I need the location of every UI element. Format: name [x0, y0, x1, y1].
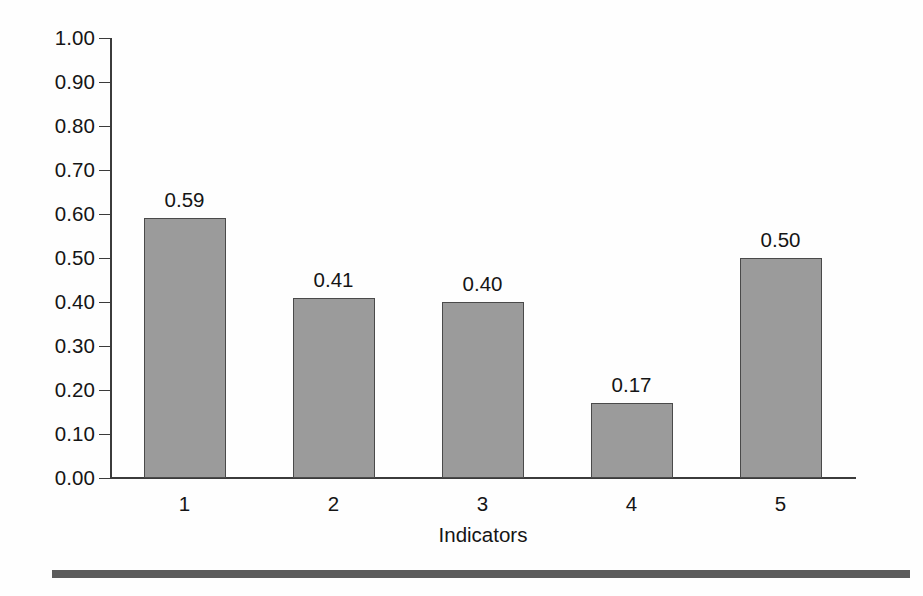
y-tick-mark	[99, 346, 110, 347]
y-tick-mark	[99, 82, 110, 83]
y-tick-label: 0.60	[55, 202, 95, 226]
bar-chart-figure: 1.000.900.800.700.600.500.400.300.200.10…	[0, 0, 923, 596]
x-axis-title: Indicators	[110, 523, 856, 547]
plot-area: 1.000.900.800.700.600.500.400.300.200.10…	[110, 38, 855, 478]
y-tick-mark	[99, 38, 110, 39]
y-tick-mark	[99, 170, 110, 171]
y-tick-label: 0.50	[55, 246, 95, 270]
bar-value-label: 0.59	[165, 188, 205, 212]
y-tick-mark	[99, 478, 110, 479]
x-tick-label-5: 5	[775, 492, 786, 516]
y-tick-mark	[99, 390, 110, 391]
y-tick-label: 0.70	[55, 158, 95, 182]
bar-2[interactable]: 0.41	[293, 298, 375, 478]
y-tick-mark	[99, 214, 110, 215]
y-tick-label: 0.20	[55, 378, 95, 402]
x-tick-label-1: 1	[179, 492, 190, 516]
y-tick-label: 0.40	[55, 290, 95, 314]
bar-5[interactable]: 0.50	[740, 258, 822, 478]
y-tick-mark	[99, 126, 110, 127]
y-tick-label: 0.30	[55, 334, 95, 358]
y-tick-label: 0.80	[55, 114, 95, 138]
y-tick-mark	[99, 258, 110, 259]
x-tick-label-2: 2	[328, 492, 339, 516]
bar-value-label: 0.40	[463, 272, 503, 296]
y-tick-label: 0.90	[55, 70, 95, 94]
bar-1[interactable]: 0.59	[144, 218, 226, 478]
x-tick-label-3: 3	[477, 492, 488, 516]
y-tick-label: 0.00	[55, 466, 95, 490]
bottom-divider-rule	[52, 570, 910, 578]
y-tick-mark	[99, 434, 110, 435]
bar-3[interactable]: 0.40	[442, 302, 524, 478]
bar-value-label: 0.17	[612, 373, 652, 397]
y-tick-mark	[99, 302, 110, 303]
x-tick-label-4: 4	[626, 492, 637, 516]
y-tick-label: 0.10	[55, 422, 95, 446]
bar-value-label: 0.50	[761, 228, 801, 252]
bar-value-label: 0.41	[314, 268, 354, 292]
bar-4[interactable]: 0.17	[591, 403, 673, 478]
y-tick-label: 1.00	[55, 26, 95, 50]
